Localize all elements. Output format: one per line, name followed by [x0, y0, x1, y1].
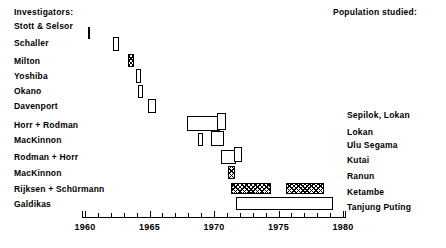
population-label: Ketambe — [347, 187, 384, 197]
axis-tick-minor — [137, 213, 138, 218]
bar-mackinnon-1a — [198, 133, 203, 146]
axis-tick-minor — [227, 213, 228, 218]
bar-yoshiba-1 — [136, 69, 141, 83]
axis-tick-major — [150, 211, 151, 218]
investigator-label: MacKinnon — [14, 168, 62, 178]
axis-tick-minor — [240, 213, 241, 218]
investigator-label: Rodman + Horr — [14, 152, 78, 162]
bar-okano-1 — [138, 85, 143, 98]
bar-mackinnon-1b — [211, 131, 224, 146]
bar-mackinnon-2 — [228, 166, 235, 179]
bar-rijksen-1 — [231, 183, 271, 194]
axis-tick-major — [279, 211, 280, 218]
investigator-label: Milton — [14, 56, 40, 66]
axis-tick-minor — [317, 213, 318, 218]
investigator-label: MacKinnon — [14, 135, 62, 145]
investigator-label: Galdikas — [14, 199, 51, 209]
investigator-label: Yoshiba — [14, 71, 48, 81]
axis-tick-minor — [175, 213, 176, 218]
population-label: Ranun — [347, 171, 374, 181]
axis-cap-left — [82, 211, 83, 218]
investigators-column-header: Investigators: — [14, 7, 73, 17]
investigator-label: Rijksen + Schürmann — [14, 184, 104, 194]
axis-tick-minor — [201, 213, 202, 218]
investigator-label: Davenport — [14, 101, 58, 111]
bar-stott-selsor-1 — [88, 27, 90, 39]
axis-tick-minor — [111, 213, 112, 218]
bar-schaller-1 — [113, 37, 119, 51]
axis-tick-minor — [253, 213, 254, 218]
investigator-label: Okano — [14, 86, 41, 96]
population-label: Sepilok, Lokan — [347, 110, 410, 120]
axis-tick-minor — [330, 213, 331, 218]
orangutan-field-study-timeline-chart: Investigators: Population studied: Stott… — [0, 0, 446, 248]
bar-galdikas-1 — [236, 197, 333, 210]
axis-tick-minor — [304, 213, 305, 218]
investigator-label: Schaller — [14, 38, 49, 48]
bar-milton-1 — [128, 54, 134, 67]
axis-tick-label: 1970 — [203, 222, 224, 232]
axis-tick-label: 1975 — [268, 222, 289, 232]
bar-horr-rodman-2 — [217, 113, 226, 130]
axis-tick-minor — [98, 213, 99, 218]
axis-tick-major — [214, 211, 215, 218]
axis-tick-major — [343, 211, 344, 218]
axis-tick-label: 1965 — [139, 222, 160, 232]
bar-horr-rodman-1 — [187, 116, 220, 131]
axis-tick-label: 1980 — [332, 222, 353, 232]
axis-tick-major — [85, 211, 86, 218]
bar-rijksen-2 — [286, 183, 324, 194]
population-label: Kutai — [347, 155, 369, 165]
axis-tick-minor — [162, 213, 163, 218]
population-label: Lokan — [347, 127, 373, 137]
axis-tick-minor — [188, 213, 189, 218]
axis-tick-minor — [266, 213, 267, 218]
axis-cap-right — [345, 211, 346, 218]
population-label: Tanjung Puting — [347, 202, 411, 212]
axis-tick-minor — [124, 213, 125, 218]
investigator-label: Stott & Selsor — [14, 21, 73, 31]
bar-rodman-horr-2 — [234, 147, 242, 162]
axis-tick-label: 1960 — [74, 222, 95, 232]
population-studied-column-header: Population studied: — [333, 7, 417, 17]
investigator-label: Horr + Rodman — [14, 120, 78, 130]
axis-tick-minor — [291, 213, 292, 218]
bar-davenport-1 — [148, 99, 156, 113]
population-label: Ulu Segama — [347, 140, 398, 150]
